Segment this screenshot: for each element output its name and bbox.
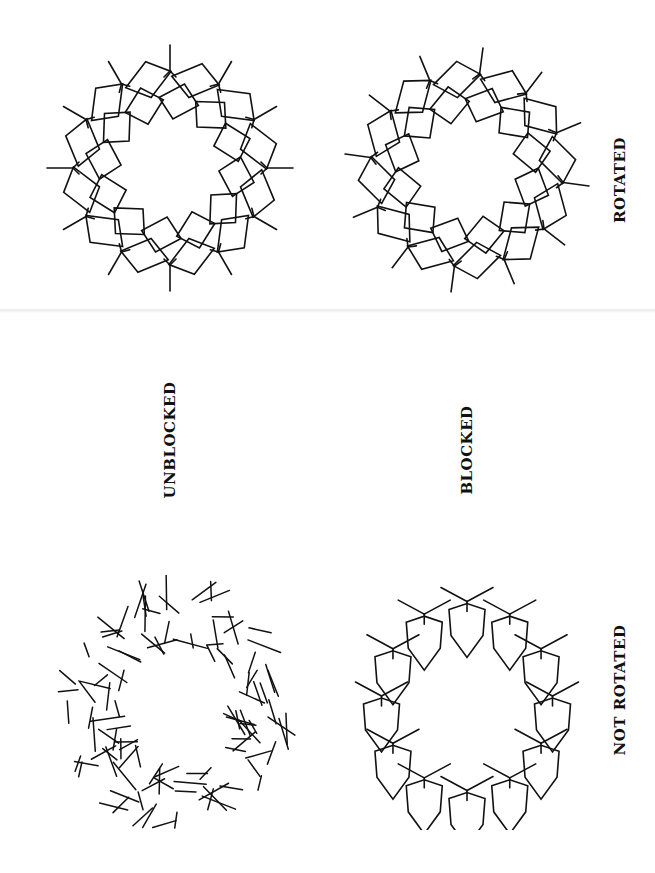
label-not-rotated: NOT ROTATED [611, 625, 629, 756]
scan-seam [0, 308, 655, 313]
diagram-unblocked-rotated [40, 38, 300, 298]
diagram-blocked-not-rotated [337, 570, 597, 830]
diagram-unblocked-not-rotated [45, 575, 305, 835]
figure-page: UNBLOCKED BLOCKED ROTATED NOT ROTATED [0, 0, 655, 873]
diagram-blocked-rotated [337, 40, 597, 300]
label-rotated: ROTATED [611, 137, 629, 223]
label-unblocked: UNBLOCKED [161, 382, 179, 499]
label-blocked: BLOCKED [458, 405, 476, 494]
